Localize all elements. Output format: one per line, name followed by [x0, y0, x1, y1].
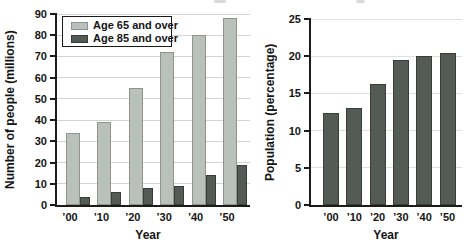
- left-y-tick-30: [50, 140, 57, 142]
- right-bar-s0-20: [370, 84, 386, 205]
- right-y-tick-label-20: 20: [271, 49, 301, 63]
- right-gridline-25: [311, 19, 462, 20]
- dual-bar-chart-figure: Number of people (millions) Population (…: [0, 0, 470, 247]
- legend-item-age-85: Age 85 and over: [71, 32, 171, 45]
- left-bar-s1-20: [143, 188, 153, 205]
- legend: Age 65 and over Age 85 and over: [62, 16, 172, 47]
- left-x-tick-label-00: ’00: [53, 211, 87, 224]
- left-gridline-10: [57, 183, 250, 184]
- left-y-tick-80: [50, 34, 57, 36]
- left-gridline-60: [57, 77, 250, 78]
- right-y-axis-title: Population (percentage): [263, 19, 277, 205]
- right-y-tick-10: [304, 130, 311, 132]
- right-y-tick-label-15: 15: [271, 86, 301, 100]
- right-x-axis-line: [309, 205, 462, 207]
- left-bar-s0-00: [66, 133, 80, 205]
- left-y-tick-label-70: 70: [16, 49, 47, 63]
- left-bar-s1-10: [111, 192, 121, 205]
- left-bar-s1-30: [174, 186, 184, 205]
- left-y-axis-line: [55, 14, 57, 207]
- left-gridline-20: [57, 162, 250, 163]
- left-y-tick-label-50: 50: [16, 92, 47, 106]
- left-y-tick-label-60: 60: [16, 71, 47, 85]
- left-x-axis-title: Year: [126, 228, 170, 242]
- left-y-tick-40: [50, 119, 57, 121]
- legend-swatch-age-65-icon: [71, 22, 88, 30]
- left-gridline-40: [57, 120, 250, 121]
- left-y-tick-label-10: 10: [16, 177, 47, 191]
- right-y-tick-label-0: 0: [271, 198, 301, 212]
- left-y-tick-label-20: 20: [16, 156, 47, 170]
- left-y-tick-60: [50, 77, 57, 79]
- left-gridline-70: [57, 56, 250, 57]
- left-y-tick-label-40: 40: [16, 113, 47, 127]
- left-x-axis-line: [55, 205, 250, 207]
- right-bar-s0-10: [346, 108, 362, 205]
- left-gridline-90: [57, 14, 250, 15]
- left-x-tick-label-50: ’50: [210, 211, 244, 224]
- left-bar-s1-50: [237, 165, 247, 205]
- right-y-tick-25: [304, 18, 311, 20]
- legend-swatch-age-85-icon: [71, 35, 88, 43]
- left-x-tick-label-20: ’20: [116, 211, 150, 224]
- left-bar-s1-40: [206, 175, 216, 205]
- left-y-tick-label-30: 30: [16, 134, 47, 148]
- left-y-tick-label-90: 90: [16, 7, 47, 21]
- left-bar-s0-50: [223, 18, 237, 205]
- right-x-tick-label-50: ’50: [431, 211, 465, 224]
- left-gridline-50: [57, 98, 250, 99]
- right-bar-s0-30: [393, 60, 409, 205]
- left-y-tick-20: [50, 162, 57, 164]
- cropped-text-remnant: [214, 0, 226, 3]
- right-y-tick-label-10: 10: [271, 124, 301, 138]
- left-x-tick-label-40: ’40: [179, 211, 213, 224]
- left-y-tick-90: [50, 13, 57, 15]
- right-y-tick-label-5: 5: [271, 161, 301, 175]
- left-y-axis-title: Number of people (millions): [3, 14, 17, 205]
- right-y-tick-15: [304, 92, 311, 94]
- legend-label-age-85: Age 85 and over: [93, 32, 178, 45]
- right-y-tick-label-25: 25: [271, 12, 301, 26]
- right-bar-s0-00: [323, 113, 339, 205]
- left-gridline-30: [57, 141, 250, 142]
- left-bar-s0-40: [192, 35, 206, 205]
- left-y-tick-0: [50, 204, 57, 206]
- left-y-tick-label-0: 0: [16, 198, 47, 212]
- left-y-tick-label-80: 80: [16, 28, 47, 42]
- right-y-tick-5: [304, 167, 311, 169]
- left-y-tick-70: [50, 55, 57, 57]
- left-bar-s1-00: [80, 197, 90, 205]
- right-x-axis-title: Year: [364, 228, 408, 242]
- right-y-tick-20: [304, 55, 311, 57]
- right-bar-s0-40: [416, 56, 432, 205]
- left-y-tick-10: [50, 183, 57, 185]
- left-y-tick-50: [50, 98, 57, 100]
- right-y-tick-0: [304, 204, 311, 206]
- left-bar-s0-30: [160, 52, 174, 205]
- left-bar-s0-10: [97, 122, 111, 205]
- right-y-axis-line: [309, 19, 311, 207]
- right-bar-s0-50: [440, 53, 456, 205]
- left-x-tick-label-10: ’10: [84, 211, 118, 224]
- left-x-tick-label-30: ’30: [147, 211, 181, 224]
- legend-label-age-65: Age 65 and over: [93, 19, 178, 32]
- legend-item-age-65: Age 65 and over: [71, 19, 171, 32]
- left-bar-s0-20: [129, 88, 143, 205]
- cropped-text-remnant: [356, 0, 365, 3]
